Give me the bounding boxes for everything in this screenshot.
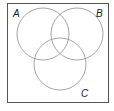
set-b-label: B <box>96 8 103 19</box>
set-c-circle <box>34 38 86 90</box>
set-a-circle <box>17 8 69 60</box>
set-c-label: C <box>81 88 89 99</box>
set-a-label: A <box>12 8 20 19</box>
venn-diagram: A B C <box>0 0 114 111</box>
